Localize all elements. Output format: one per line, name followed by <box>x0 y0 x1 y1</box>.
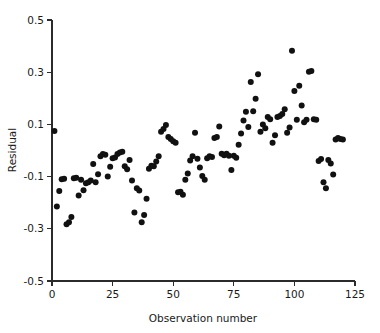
data-point <box>241 117 247 123</box>
data-point <box>136 187 142 193</box>
data-point <box>182 177 188 183</box>
data-point <box>257 129 263 135</box>
data-point <box>304 117 310 123</box>
x-tick-label: 50 <box>167 288 180 300</box>
data-point <box>243 109 249 115</box>
data-point <box>320 179 326 185</box>
data-point <box>81 187 87 193</box>
y-tick-label: 0.3 <box>27 66 44 78</box>
data-point <box>51 128 57 134</box>
data-point <box>308 68 314 74</box>
data-point <box>102 152 108 158</box>
data-point <box>76 192 82 198</box>
data-point <box>233 155 239 161</box>
data-point <box>173 140 179 146</box>
data-point <box>56 188 62 194</box>
data-point <box>197 164 203 170</box>
x-tick-label: 100 <box>284 288 304 300</box>
data-point <box>318 156 324 162</box>
data-point <box>61 176 67 182</box>
y-tick-label: -0.5 <box>24 275 45 287</box>
data-point <box>330 172 336 178</box>
data-point <box>124 166 130 172</box>
data-point <box>313 117 319 123</box>
data-point <box>340 137 346 143</box>
data-point <box>90 161 96 167</box>
residual-scatter-plot-figure: -0.5-0.3-0.10.10.30.50255075100125 Obser… <box>0 0 380 333</box>
data-point <box>141 212 147 218</box>
y-axis-title: Residual <box>6 128 18 172</box>
data-point <box>287 125 293 131</box>
data-point <box>238 131 244 137</box>
y-tick-label: -0.3 <box>24 222 45 234</box>
data-point <box>163 122 169 128</box>
data-point <box>54 204 60 210</box>
data-point <box>284 130 290 136</box>
data-point <box>245 124 251 130</box>
data-point <box>323 185 329 191</box>
data-point <box>250 108 256 114</box>
data-point <box>253 96 259 102</box>
data-point <box>107 164 113 170</box>
data-point <box>144 196 150 202</box>
x-tick-label: 0 <box>49 288 56 300</box>
data-point <box>105 174 111 180</box>
data-point <box>214 134 220 140</box>
data-point <box>78 177 84 183</box>
data-point <box>228 167 234 173</box>
data-point <box>291 88 297 94</box>
data-point <box>216 123 222 129</box>
data-point <box>202 177 208 183</box>
y-tick-label: 0.1 <box>27 118 44 130</box>
x-tick-label: 25 <box>106 288 119 300</box>
data-point <box>153 158 159 164</box>
y-tick-label: -0.1 <box>24 170 45 182</box>
plot-canvas: -0.5-0.3-0.10.10.30.50255075100125 Obser… <box>0 0 380 333</box>
data-point <box>262 125 268 131</box>
data-point <box>267 116 273 122</box>
data-point <box>272 132 278 138</box>
data-point <box>127 157 133 163</box>
data-point <box>296 83 302 89</box>
ticks-group <box>47 20 355 286</box>
data-point <box>68 214 74 220</box>
data-point <box>66 219 72 225</box>
data-point <box>129 178 135 184</box>
data-point <box>156 153 162 159</box>
data-point <box>248 79 254 85</box>
x-tick-label: 75 <box>227 288 240 300</box>
data-point <box>131 210 137 216</box>
data-point <box>139 219 145 225</box>
data-point <box>236 142 242 148</box>
axes-group <box>52 20 355 281</box>
axis-spines <box>52 20 355 281</box>
data-point <box>95 171 101 177</box>
data-point <box>209 154 215 160</box>
data-point <box>270 140 276 146</box>
data-point <box>185 170 191 176</box>
data-point <box>299 103 305 109</box>
data-point <box>93 179 99 185</box>
data-point <box>294 117 300 123</box>
data-point <box>119 149 125 155</box>
data-point <box>192 130 198 136</box>
data-point <box>194 156 200 162</box>
data-point <box>180 192 186 198</box>
data-points-group <box>51 48 345 228</box>
data-point <box>289 48 295 54</box>
data-point <box>282 106 288 112</box>
data-point <box>328 161 334 167</box>
data-point <box>255 71 261 77</box>
x-axis-title: Observation number <box>149 312 258 324</box>
x-tick-label: 125 <box>345 288 365 300</box>
y-tick-label: 0.5 <box>27 14 44 26</box>
